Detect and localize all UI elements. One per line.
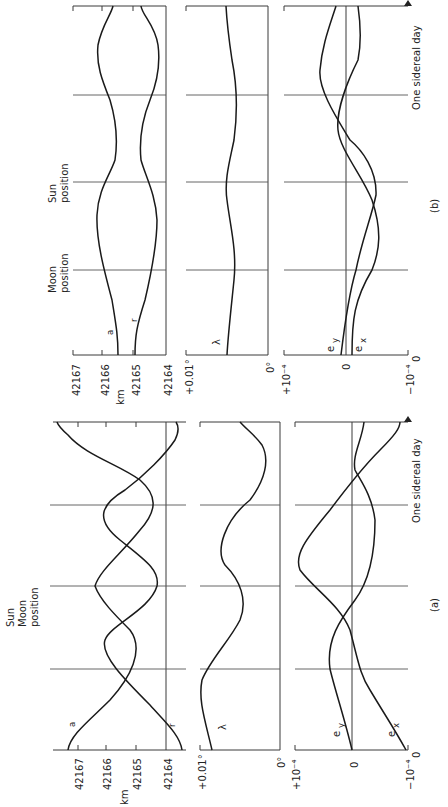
svg-text:+0.01°: +0.01° [197, 754, 208, 790]
svg-text:x: x [391, 723, 401, 728]
svg-text:0: 0 [349, 762, 360, 768]
svg-text:km: km [119, 789, 130, 805]
svg-text:y: y [330, 338, 340, 343]
tick-lambda-zero: 0° [265, 362, 276, 373]
panel-b-lambda-plot: λ +0.01° 0° [184, 6, 276, 395]
svg-text:e: e [331, 731, 342, 737]
tick-e-zero: 0 [341, 364, 352, 370]
panel-b-label: (b) [429, 199, 440, 213]
svg-text:0°: 0° [276, 757, 287, 768]
panel-b: a r 42167 42166 42165 42164 km Moon posi… [47, 0, 440, 405]
svg-text:−10⁻⁴: −10⁻⁴ [405, 760, 416, 790]
panel-b-e-plot: e y e x +10⁻⁴ 0 −10⁻⁴ 0 One sidereal day… [281, 0, 440, 395]
curve-r [135, 6, 159, 355]
km-unit: km [115, 389, 126, 405]
panel-b-annotations: Moon position Sun position [47, 163, 70, 293]
panel-a-km-plot: a r 42167 42166 42165 42164 km Sun Moon … [5, 422, 186, 805]
svg-text:42166: 42166 [102, 758, 113, 790]
tick-42164: 42164 [163, 364, 174, 396]
curve-ex [338, 6, 379, 355]
panel-a-label: (a) [429, 598, 440, 612]
arrow-icon [404, 0, 412, 6]
arrow-icon [404, 416, 412, 422]
panel-b-km-plot: a r 42167 42166 42165 42164 km [71, 6, 174, 405]
label-lambda: λ [211, 339, 222, 345]
curve-ey [320, 6, 376, 355]
curve-lambda [226, 6, 236, 355]
svg-text:42165: 42165 [132, 758, 143, 790]
svg-text:Sun: Sun [5, 608, 16, 627]
tick-42167: 42167 [71, 364, 82, 396]
x-origin-label: 0 [411, 356, 422, 362]
svg-text:position: position [59, 163, 70, 203]
tick-e-minus: −10⁻⁴ [405, 365, 416, 395]
label-ey: e [325, 346, 336, 352]
svg-text:Sun: Sun [47, 184, 58, 203]
curve-a [97, 6, 118, 355]
tick-e-plus: +10⁻⁴ [281, 365, 292, 395]
svg-text:Moon: Moon [17, 600, 28, 627]
tick-42165: 42165 [131, 364, 142, 396]
tick-lambda-plus: +0.01° [184, 359, 195, 395]
svg-text:position: position [29, 587, 40, 627]
svg-text:x: x [358, 338, 368, 343]
label-ex: e [353, 346, 364, 352]
tick-42166: 42166 [100, 364, 111, 396]
svg-text:42167: 42167 [74, 758, 85, 790]
panel-a-lambda-plot: λ +0.01° 0° [197, 422, 287, 790]
label-r: r [167, 723, 177, 727]
label-r: r [129, 318, 139, 322]
svg-text:position: position [59, 253, 70, 293]
svg-text:Moon: Moon [47, 266, 58, 293]
svg-text:0: 0 [411, 752, 422, 758]
svg-text:42164: 42164 [163, 758, 174, 790]
x-axis-label: One sidereal day [411, 25, 422, 110]
label-a: a [105, 330, 115, 335]
svg-text:One sidereal day: One sidereal day [411, 438, 422, 523]
panel-a-e-plot: e y e x +10⁻⁴ 0 −10⁻⁴ 0 One sidereal day… [291, 416, 440, 790]
svg-text:e: e [386, 731, 397, 737]
figure-canvas: a r 42167 42166 42165 42164 km Moon posi… [0, 0, 448, 807]
panel-a: a r 42167 42166 42165 42164 km Sun Moon … [5, 416, 440, 805]
svg-text:y: y [336, 723, 346, 728]
label-a: a [67, 722, 77, 727]
svg-text:+10⁻⁴: +10⁻⁴ [291, 760, 302, 790]
svg-text:λ: λ [217, 724, 228, 730]
